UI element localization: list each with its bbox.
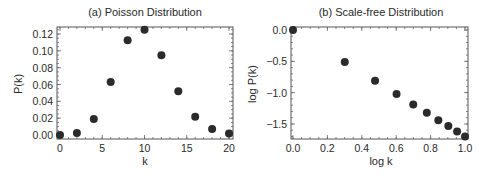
x-axis-label: k [142,155,148,167]
data-point [444,122,452,130]
y-axis-label: P(k) [12,74,24,94]
data-point [124,36,132,44]
x-tick-label: 0.2 [320,142,335,154]
x-tick-label: 0.4 [354,142,369,154]
data-point [341,58,349,66]
x-tick-labels: 05101520 [57,142,235,154]
y-tick-label: 0.08 [33,62,54,74]
x-tick-label: 10 [139,142,151,154]
x-axis-label: log k [369,155,393,167]
figure: (a) Poisson Distribution 0.000.020.040.0… [0,0,482,177]
data-points [56,26,233,139]
data-point [141,26,149,34]
data-point [423,109,431,117]
y-tick-label: 0.00 [33,129,54,141]
y-tick-label: 0.06 [33,79,54,91]
data-points [289,26,469,141]
x-tick-label: 15 [181,142,193,154]
y-tick-label: −1.0 [266,87,287,99]
y-tick-label: 0.12 [33,28,54,40]
x-tick-labels: 0.00.20.40.60.81.0 [286,142,473,154]
data-point [73,129,81,137]
data-point [56,131,64,139]
y-tick-label: 0.04 [33,95,54,107]
x-tick-label: 0.6 [389,142,404,154]
x-tick-label: 0 [57,142,63,154]
y-tick-labels: 0.000.020.040.060.080.100.12 [33,28,54,141]
y-tick-label: 0.0 [272,24,287,36]
data-point [434,116,442,124]
x-tick-label: 1.0 [458,142,473,154]
y-tick-labels: 0.0−0.5−1.0−1.5 [266,24,287,130]
x-tick-label: 0.0 [286,142,301,154]
x-tick-label: 0.8 [423,142,438,154]
data-point [409,101,417,109]
y-tick-label: −1.5 [266,118,287,130]
y-tick-label: −0.5 [266,55,287,67]
data-point [191,113,199,121]
poisson-chart: (a) Poisson Distribution 0.000.020.040.0… [12,6,235,167]
plot-frame [57,27,233,139]
y-tick-label: 0.10 [33,45,54,57]
chart-title: (a) Poisson Distribution [88,6,202,18]
x-tick-label: 5 [99,142,105,154]
y-tick-label: 0.02 [33,112,54,124]
x-tick-label: 20 [223,142,235,154]
data-point [453,128,461,136]
minor-ticks [57,27,233,139]
data-point [174,87,182,95]
data-point [371,77,379,85]
data-point [393,90,401,98]
data-point [90,115,98,123]
data-point [289,26,297,34]
chart-title: (b) Scale-free Distribution [319,6,444,18]
y-axis-label: log P(k) [246,65,258,103]
data-point [225,129,233,137]
data-point [461,133,469,141]
scale-free-chart: (b) Scale-free Distribution 0.0−0.5−1.0−… [246,6,472,167]
data-point [208,125,216,133]
data-point [107,78,115,86]
data-point [157,51,165,59]
